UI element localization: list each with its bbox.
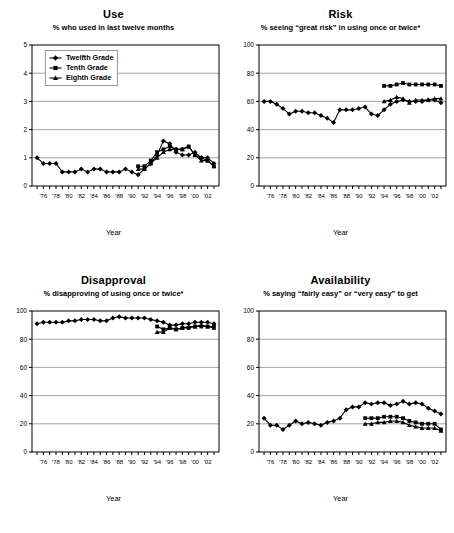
y-axis-tick-label: 40 <box>247 392 255 399</box>
data-point-diamond-marker <box>117 314 122 319</box>
x-axis-tick-label: '94 <box>153 193 161 199</box>
x-axis-tick-label: '96 <box>166 459 174 465</box>
data-point-diamond-marker <box>98 318 103 323</box>
x-axis-tick-label: '80 <box>65 193 73 199</box>
y-axis-tick-label: 40 <box>247 126 255 133</box>
x-axis-tick-label: '76 <box>266 459 274 465</box>
data-point-diamond-marker <box>394 99 399 104</box>
x-axis-tick-label: '98 <box>405 193 413 199</box>
y-axis-tick-label: 20 <box>247 420 255 427</box>
x-axis-tick-label: '86 <box>103 459 111 465</box>
x-axis-title: Year <box>0 494 227 503</box>
data-point-diamond-marker <box>299 109 304 114</box>
plot-frame <box>259 311 446 452</box>
data-point-square-marker <box>382 84 386 88</box>
x-axis-tick-label: '90 <box>355 459 363 465</box>
data-point-diamond-marker <box>180 321 185 326</box>
data-point-square-marker <box>407 83 411 87</box>
panel-use: Use % who used in last twelve months 012… <box>0 0 227 266</box>
data-point-diamond-marker <box>205 320 210 325</box>
data-point-diamond-marker <box>129 316 134 321</box>
x-axis-tick-label: '80 <box>292 459 300 465</box>
data-point-diamond-marker <box>41 320 46 325</box>
data-point-diamond-marker <box>123 316 128 321</box>
data-point-diamond-marker <box>66 169 71 174</box>
square-marker <box>49 64 62 72</box>
data-point-diamond-marker <box>299 421 304 426</box>
data-point-diamond-marker <box>268 99 273 104</box>
x-axis-tick-label: '94 <box>380 193 388 199</box>
triangle-marker <box>49 74 62 82</box>
x-axis-tick-label: '82 <box>77 459 85 465</box>
legend-item-label: Twelfth Grade <box>66 53 113 63</box>
x-axis-tick-label: '00 <box>191 459 199 465</box>
data-point-square-marker <box>395 83 399 87</box>
y-axis-tick-label: 5 <box>23 41 27 48</box>
data-point-diamond-marker <box>104 169 109 174</box>
data-point-diamond-marker <box>388 403 393 408</box>
data-point-diamond-marker <box>54 320 59 325</box>
x-axis-tick-label: '84 <box>90 459 98 465</box>
y-axis-tick-label: 2 <box>23 126 27 133</box>
data-point-diamond-marker <box>394 402 399 407</box>
series-line-square <box>384 83 441 86</box>
y-axis-tick-label: 3 <box>23 98 27 105</box>
plot-frame <box>259 45 446 186</box>
x-axis-tick-label: '02 <box>431 459 439 465</box>
y-axis-tick-label: 20 <box>20 420 28 427</box>
data-point-diamond-marker <box>432 409 437 414</box>
y-axis-tick-label: 80 <box>247 336 255 343</box>
x-axis-tick-label: '02 <box>204 193 212 199</box>
data-point-square-marker <box>395 415 399 419</box>
data-point-diamond-marker <box>161 138 166 143</box>
x-axis-tick-label: '86 <box>103 193 111 199</box>
legend: Twelfth GradeTenth GradeEighth Grade <box>45 50 118 86</box>
x-axis-tick-label: '78 <box>279 459 287 465</box>
x-axis-tick-label: '84 <box>317 459 325 465</box>
plot-area-availability: 020406080100'76'78'80'82'84'86'88'90'92'… <box>227 305 454 490</box>
data-point-diamond-marker <box>47 320 52 325</box>
data-point-diamond-marker <box>262 99 267 104</box>
data-point-diamond-marker <box>123 167 128 172</box>
data-point-diamond-marker <box>174 323 179 328</box>
x-axis-tick-label: '76 <box>39 193 47 199</box>
data-point-diamond-marker <box>72 318 77 323</box>
data-point-square-marker <box>401 416 405 420</box>
x-axis-tick-label: '94 <box>380 459 388 465</box>
x-axis-tick-label: '92 <box>368 193 376 199</box>
x-axis-tick-label: '92 <box>141 193 149 199</box>
x-axis-tick-label: '88 <box>342 459 350 465</box>
x-axis-tick-label: '86 <box>330 193 338 199</box>
y-axis-tick-label: 80 <box>247 70 255 77</box>
data-point-square-marker <box>155 325 159 329</box>
x-axis-tick-label: '88 <box>115 193 123 199</box>
data-point-diamond-marker <box>382 400 387 405</box>
chart-canvas-risk: 020406080100'76'78'80'82'84'86'88'90'92'… <box>227 39 454 224</box>
data-point-square-marker <box>426 83 430 87</box>
data-point-diamond-marker <box>413 400 418 405</box>
x-axis-tick-label: '98 <box>178 193 186 199</box>
data-point-diamond-marker <box>369 402 374 407</box>
data-point-diamond-marker <box>356 106 361 111</box>
data-point-square-marker <box>389 84 393 88</box>
panel-title: Availability <box>227 274 454 286</box>
data-point-square-marker <box>389 415 393 419</box>
y-axis-tick-label: 80 <box>20 336 28 343</box>
data-point-diamond-marker <box>306 110 311 115</box>
x-axis-title: Year <box>227 494 454 503</box>
data-point-diamond-marker <box>293 109 298 114</box>
x-axis-tick-label: '00 <box>418 459 426 465</box>
data-point-diamond-marker <box>350 107 355 112</box>
x-axis-tick-label: '92 <box>141 459 149 465</box>
panel-title: Disapproval <box>0 274 227 286</box>
y-axis-tick-label: 0 <box>23 182 27 189</box>
data-point-diamond-marker <box>60 320 65 325</box>
y-axis-tick-label: 0 <box>250 182 254 189</box>
data-point-square-marker <box>439 84 443 88</box>
x-axis-tick-label: '76 <box>39 459 47 465</box>
data-point-square-marker <box>376 416 380 420</box>
data-point-square-marker <box>420 422 424 426</box>
data-point-square-marker <box>414 83 418 87</box>
x-axis-tick-label: '88 <box>115 459 123 465</box>
x-axis-tick-label: '02 <box>431 193 439 199</box>
